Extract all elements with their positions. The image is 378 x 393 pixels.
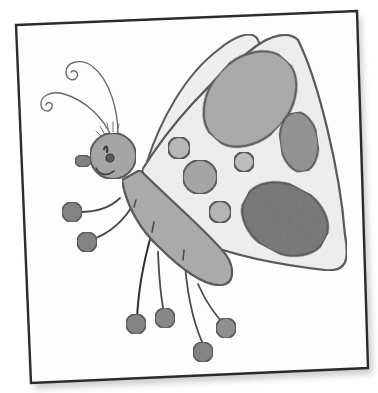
foot-leg-1 bbox=[126, 314, 146, 334]
foot-leg-2 bbox=[155, 308, 175, 328]
wing-spot-small-1 bbox=[168, 137, 190, 159]
wing-spot-small-4 bbox=[209, 201, 231, 223]
foot-leg-4 bbox=[216, 318, 236, 338]
head-bump bbox=[75, 155, 91, 167]
leg-stub-3 bbox=[183, 250, 184, 260]
eye bbox=[106, 154, 114, 162]
butterfly-drawing bbox=[0, 0, 378, 393]
wing-spot-small-3 bbox=[234, 152, 254, 172]
wing-spot-small-2 bbox=[183, 160, 217, 194]
foot-leg-3 bbox=[193, 342, 213, 362]
foot-arm-upper bbox=[62, 202, 82, 222]
foot-arm-lower bbox=[77, 232, 97, 252]
